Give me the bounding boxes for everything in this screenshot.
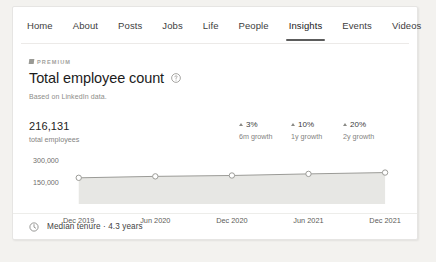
growth-stat-6m: 3% 6m growth bbox=[239, 120, 291, 141]
tab-events-label: Events bbox=[342, 20, 372, 31]
tab-insights-label: Insights bbox=[289, 20, 323, 31]
insights-card: Home About Posts Jobs Life People Insigh… bbox=[12, 6, 418, 240]
card-body: PREMIUM Total employee count Based on Li… bbox=[13, 57, 417, 227]
total-employees-label: total employees bbox=[29, 135, 79, 144]
chart-data-point[interactable] bbox=[229, 173, 234, 178]
growth-6m-value: 3% bbox=[246, 120, 258, 129]
tab-people[interactable]: People bbox=[239, 9, 269, 41]
total-employees-value: 216,131 bbox=[29, 120, 79, 132]
caret-up-icon bbox=[343, 123, 347, 126]
title-row: Total employee count bbox=[29, 70, 401, 86]
clock-icon bbox=[29, 222, 39, 232]
chart-data-point[interactable] bbox=[76, 175, 81, 180]
premium-label: PREMIUM bbox=[37, 59, 71, 65]
tab-home-label: Home bbox=[27, 20, 53, 31]
tab-insights[interactable]: Insights bbox=[289, 9, 323, 41]
total-employees-stat: 216,131 total employees bbox=[29, 120, 79, 144]
growth-6m-top: 3% bbox=[239, 120, 291, 129]
caret-up-icon bbox=[291, 123, 295, 126]
tab-videos[interactable]: Videos bbox=[392, 9, 421, 41]
tab-people-label: People bbox=[239, 20, 269, 31]
tab-jobs[interactable]: Jobs bbox=[162, 9, 182, 41]
chart-y-tick-label: 300,000 bbox=[33, 157, 59, 165]
card-footer: Median tenure · 4.3 years bbox=[13, 213, 417, 239]
tab-life-label: Life bbox=[203, 20, 219, 31]
premium-badge-icon bbox=[29, 59, 35, 64]
nav-divider bbox=[21, 43, 409, 44]
company-nav-tabs: Home About Posts Jobs Life People Insigh… bbox=[13, 7, 417, 43]
chart-data-point[interactable] bbox=[382, 170, 387, 175]
tab-about[interactable]: About bbox=[73, 9, 98, 41]
growth-6m-label: 6m growth bbox=[239, 132, 291, 141]
tab-home[interactable]: Home bbox=[27, 9, 53, 41]
tab-posts[interactable]: Posts bbox=[118, 9, 142, 41]
tab-life[interactable]: Life bbox=[203, 9, 219, 41]
tab-jobs-label: Jobs bbox=[162, 20, 182, 31]
premium-badge: PREMIUM bbox=[29, 57, 401, 66]
growth-stat-2y: 20% 2y growth bbox=[343, 120, 395, 141]
card-subtitle: Based on LinkedIn data. bbox=[29, 93, 401, 100]
stats-row: 216,131 total employees 3% 6m growth 10% bbox=[29, 120, 401, 148]
page-title: Total employee count bbox=[29, 70, 164, 86]
info-circle-icon[interactable] bbox=[171, 73, 181, 83]
growth-2y-value: 20% bbox=[350, 120, 366, 129]
growth-2y-top: 20% bbox=[343, 120, 395, 129]
tab-posts-label: Posts bbox=[118, 20, 142, 31]
chart-data-point[interactable] bbox=[306, 171, 311, 176]
tab-events[interactable]: Events bbox=[342, 9, 372, 41]
tab-videos-label: Videos bbox=[392, 20, 421, 31]
tab-about-label: About bbox=[73, 20, 98, 31]
growth-2y-label: 2y growth bbox=[343, 132, 395, 141]
growth-stat-1y: 10% 1y growth bbox=[291, 120, 343, 141]
chart-data-point[interactable] bbox=[153, 174, 158, 179]
growth-1y-label: 1y growth bbox=[291, 132, 343, 141]
median-tenure-text: Median tenure · 4.3 years bbox=[47, 222, 143, 231]
growth-1y-top: 10% bbox=[291, 120, 343, 129]
caret-up-icon bbox=[239, 123, 243, 126]
growth-1y-value: 10% bbox=[298, 120, 314, 129]
chart-y-tick-label: 150,000 bbox=[33, 179, 59, 187]
chart-svg: 300,000150,000 bbox=[29, 152, 401, 214]
employee-count-chart: 300,000150,000 bbox=[29, 152, 401, 214]
growth-stats-group: 3% 6m growth 10% 1y growth 20% bbox=[239, 120, 401, 141]
